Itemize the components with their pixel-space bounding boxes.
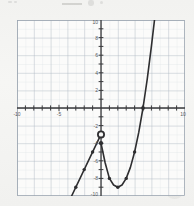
- x-tick-label-10: 10: [180, 112, 186, 117]
- y-tick-label--4: -4: [83, 141, 98, 146]
- open-endpoint-marker: [98, 131, 104, 137]
- y-tick-label--10: -10: [83, 192, 98, 197]
- x-tick-label--10: -10: [13, 112, 20, 117]
- closed-endpoint-marker: [99, 141, 103, 145]
- y-tick-label-4: 4: [83, 70, 98, 75]
- artifact-dot-left2: [14, 1, 17, 3]
- y-tick-label--6: -6: [83, 158, 98, 163]
- graph-svg: [17, 20, 185, 196]
- y-tick-label--2: -2: [83, 123, 98, 128]
- x-tick-label--5: -5: [57, 112, 61, 117]
- y-tick-label--8: -8: [83, 176, 98, 181]
- y-tick-label-6: 6: [83, 53, 98, 58]
- y-tick-label-10: 10: [83, 20, 98, 25]
- coordinate-plane: -10 -5 10 10 8 6 4 2 -2 -4 -6 -8 -10: [17, 20, 185, 196]
- y-tick-label-2: 2: [83, 88, 98, 93]
- artifact-bar: [62, 3, 82, 5]
- artifact-dot-left: [8, 1, 12, 3]
- y-tick-label-8: 8: [83, 35, 98, 40]
- artifact-ghost-text: [6, 7, 188, 15]
- artifact-blob: [88, 0, 94, 6]
- artifact-dot-right: [100, 1, 103, 4]
- top-edge-scan-artifacts: [0, 0, 194, 16]
